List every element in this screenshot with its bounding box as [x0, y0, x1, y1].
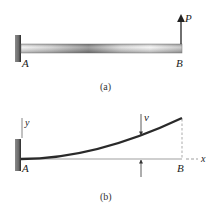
cantilever-beam: [21, 44, 182, 53]
caption-a: (a): [100, 81, 111, 93]
label-b-bottom: B: [177, 162, 184, 174]
figure-b: y x v A B (b): [15, 111, 206, 203]
label-p: P: [184, 12, 192, 24]
fixed-wall-support-b: [15, 139, 21, 171]
fixed-wall-support-a: [15, 35, 21, 62]
label-y-axis: y: [24, 117, 30, 128]
label-a-top: A: [21, 57, 29, 69]
deflected-elastic-curve: [21, 118, 182, 159]
caption-b: (b): [100, 191, 112, 203]
label-a-bottom: A: [21, 162, 29, 174]
figure-a: P A B (a): [15, 12, 192, 93]
diagram-canvas: P A B (a) y x v A B (b: [0, 0, 222, 216]
label-x-axis: x: [200, 153, 206, 164]
label-b-top: B: [176, 57, 183, 69]
label-v-deflection: v: [144, 111, 149, 123]
